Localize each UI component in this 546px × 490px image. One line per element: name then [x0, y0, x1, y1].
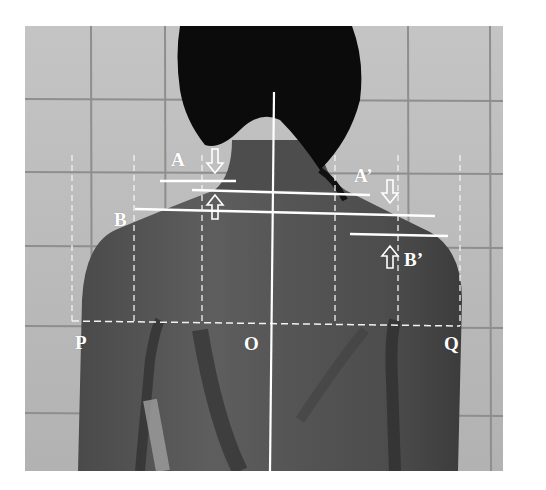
- label-P: P: [75, 333, 87, 352]
- label-A: A: [171, 150, 185, 169]
- label-Q: Q: [444, 334, 459, 353]
- annotation-overlay: [0, 0, 546, 490]
- midline-O: [270, 92, 274, 471]
- baseline-PQ: [72, 321, 460, 326]
- down-arrow-A-icon: [207, 149, 223, 173]
- up-arrow-B-icon: [207, 195, 223, 219]
- measurement-lines: [135, 181, 448, 236]
- label-B: B: [114, 210, 127, 229]
- down-arrow-A-prime-icon: [382, 180, 398, 203]
- line-B-prime: [350, 234, 448, 236]
- up-arrow-B-prime-icon: [382, 246, 398, 268]
- line-B: [135, 209, 435, 216]
- label-A-prime: A’: [354, 166, 373, 185]
- vertical-dashed-lines: [72, 155, 460, 326]
- label-B-prime: B’: [404, 250, 423, 269]
- label-O: O: [244, 334, 259, 353]
- line-A-prime: [192, 190, 370, 195]
